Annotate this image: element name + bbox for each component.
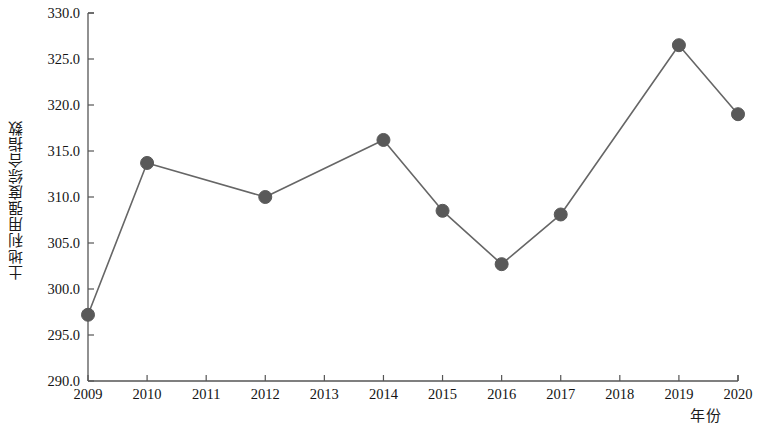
axis-ticks — [88, 13, 738, 381]
data-point-marker — [259, 191, 272, 204]
axes — [88, 13, 738, 381]
series-line — [88, 45, 738, 315]
data-point-marker — [732, 108, 745, 121]
data-point-marker — [377, 133, 390, 146]
plot-area — [0, 0, 760, 435]
data-markers — [82, 39, 745, 322]
data-point-marker — [436, 204, 449, 217]
data-point-marker — [82, 308, 95, 321]
data-point-marker — [672, 39, 685, 52]
data-point-marker — [554, 208, 567, 221]
chart-figure: 土地利用强度综合指数 年份 290.0295.0300.0305.0310.03… — [0, 0, 760, 435]
data-line — [88, 45, 738, 315]
data-point-marker — [141, 156, 154, 169]
data-point-marker — [495, 258, 508, 271]
